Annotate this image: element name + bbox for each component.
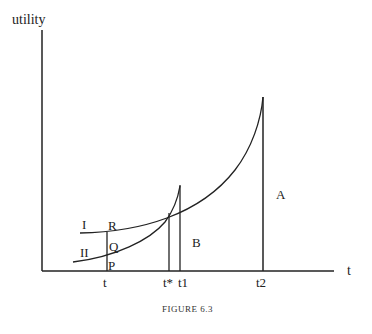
y-axis-label: utility [12,13,45,27]
point-R-label: R [108,219,117,232]
curve-II [73,186,180,262]
point-Q-label: Q [109,240,118,253]
point-P-label: P [108,259,115,272]
tick-t-label: t [103,276,107,289]
curve-I-label: I [82,218,86,231]
curve-II-label: II [80,246,89,259]
tick-t1-label: t1 [178,276,188,289]
figure-caption: FIGURE 6.3 [162,304,213,314]
region-B-label: B [192,236,201,249]
tick-t-star-label: t* [163,276,173,289]
region-A-label: A [276,188,285,201]
x-axis-label: t [347,264,351,278]
tick-t2-label: t2 [256,276,266,289]
